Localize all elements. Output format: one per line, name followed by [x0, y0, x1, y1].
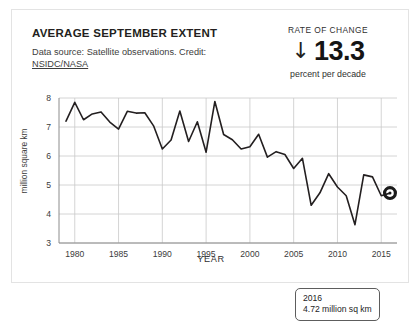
highlight-point-marker[interactable] [385, 188, 396, 199]
data-source-text: Data source: Satellite observations. Cre… [32, 47, 206, 57]
y-tick-label: 3 [37, 238, 51, 248]
plot-area: million square km 345678 198019851990199… [12, 88, 410, 283]
rate-of-change-block: RATE OF CHANGE ↓ 13.3 percent per decade [262, 25, 394, 79]
title-block: AVERAGE SEPTEMBER EXTENT Data source: Sa… [32, 27, 247, 70]
y-tick-label: 6 [37, 151, 51, 161]
y-tick-label: 5 [37, 180, 51, 190]
tooltip-year: 2016 [303, 293, 372, 304]
y-tick-label: 7 [37, 122, 51, 132]
chart-header: AVERAGE SEPTEMBER EXTENT Data source: Sa… [12, 10, 408, 88]
credit-link[interactable]: NSIDC/NASA [32, 59, 88, 69]
series-line [66, 101, 390, 224]
gridlines [59, 98, 397, 243]
tooltip: 2016 4.72 million sq km [295, 288, 380, 321]
y-tick-label: 8 [37, 93, 51, 103]
axis-lines [59, 98, 397, 243]
y-tick-label: 4 [37, 209, 51, 219]
chart-card: AVERAGE SEPTEMBER EXTENT Data source: Sa… [11, 9, 409, 283]
x-axis-title: YEAR [12, 254, 410, 264]
rate-of-change-value: 13.3 [314, 38, 365, 65]
rate-of-change-caption: RATE OF CHANGE [262, 25, 394, 35]
page-title: AVERAGE SEPTEMBER EXTENT [32, 27, 247, 40]
rate-of-change-row: ↓ 13.3 [262, 36, 394, 66]
tooltip-value: 4.72 million sq km [303, 304, 372, 315]
rate-of-change-units: percent per decade [262, 69, 394, 79]
down-arrow-icon: ↓ [292, 40, 310, 62]
chart-subtitle: Data source: Satellite observations. Cre… [32, 47, 247, 70]
